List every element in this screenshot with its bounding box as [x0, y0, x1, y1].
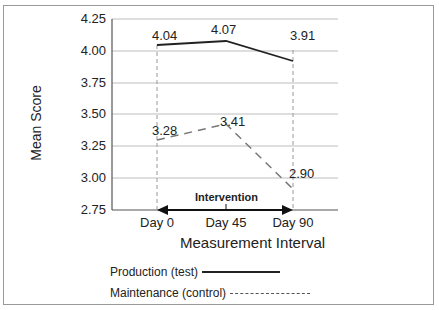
x-tick: Day 0: [127, 215, 187, 230]
x-tick: Day 45: [196, 215, 256, 230]
y-tick: 3.75: [66, 75, 106, 90]
y-tick: 2.75: [66, 202, 106, 217]
y-tick: 4.25: [66, 11, 106, 26]
data-label: 3.41: [220, 114, 245, 129]
data-label: 4.04: [152, 28, 177, 43]
y-tick: 3.00: [66, 170, 106, 185]
legend-item-production: Production (test): [110, 265, 280, 279]
data-label: 3.91: [290, 28, 315, 43]
x-tick: Day 90: [263, 215, 323, 230]
legend-label: Production (test): [110, 265, 198, 279]
intervention-label: Intervention: [195, 191, 258, 203]
y-tick: 3.25: [66, 138, 106, 153]
y-tick: 4.00: [66, 43, 106, 58]
legend-item-maintenance: Maintenance (control): [110, 286, 310, 300]
data-label: 3.28: [152, 123, 177, 138]
y-axis-label: Mean Score: [28, 78, 44, 168]
data-label: 4.07: [211, 22, 236, 37]
legend-label: Maintenance (control): [110, 286, 226, 300]
y-tick: 3.50: [66, 106, 106, 121]
x-axis-label: Measurement Interval: [180, 234, 325, 251]
legend-solid-line-icon: [202, 271, 280, 273]
legend-dashed-line-icon: [230, 293, 310, 294]
data-label: 2.90: [289, 166, 314, 181]
